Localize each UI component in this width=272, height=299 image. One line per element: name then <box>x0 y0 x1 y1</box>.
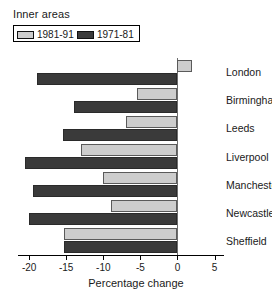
x-tick--15 <box>66 255 67 260</box>
x-tick-label-5: 5 <box>200 262 230 273</box>
legend-entry-1971-81: 1971-81 <box>77 28 134 41</box>
category-label-liverpool: Liverpool <box>226 151 269 163</box>
x-tick-5 <box>215 255 216 260</box>
x-tick-0 <box>177 255 178 260</box>
x-tick-label-0: 0 <box>162 262 192 273</box>
legend-swatch-icon-1971-81 <box>77 31 94 39</box>
bar-birmingham-1981-91 <box>137 88 178 100</box>
bar-birmingham-1971-81 <box>74 101 178 113</box>
bar-chart: Inner areas 1981-91 1971-81 -20-15-10-50… <box>0 0 272 299</box>
plot-area <box>18 58 222 255</box>
bar-sheffield-1971-81 <box>64 241 177 253</box>
x-tick--20 <box>29 255 30 260</box>
bar-sheffield-1981-91 <box>64 228 177 240</box>
legend-label-1971-81: 1971-81 <box>97 30 134 40</box>
bar-newcastle-1971-81 <box>29 213 177 225</box>
legend-entry-1981-91: 1981-91 <box>17 28 74 41</box>
bar-manchester-1981-91 <box>103 172 177 184</box>
x-tick-label--20: -20 <box>14 262 44 273</box>
x-tick-label--10: -10 <box>88 262 118 273</box>
x-axis-title: Percentage change <box>0 277 272 289</box>
category-label-leeds: Leeds <box>226 122 255 134</box>
legend-swatch-icon-1981-91 <box>17 31 34 39</box>
bar-manchester-1971-81 <box>33 185 178 197</box>
legend-box: 1981-91 1971-81 <box>13 25 140 42</box>
category-label-london: London <box>226 66 261 78</box>
category-label-manchester: Manchester <box>226 179 272 191</box>
x-tick--5 <box>140 255 141 260</box>
x-axis-line <box>18 255 224 256</box>
bar-leeds-1971-81 <box>63 129 178 141</box>
category-label-birmingham: Birmingham <box>226 94 272 106</box>
x-tick-label--15: -15 <box>51 262 81 273</box>
x-tick-label--5: -5 <box>125 262 155 273</box>
x-tick--10 <box>103 255 104 260</box>
bar-newcastle-1981-91 <box>111 200 178 212</box>
legend-label-1981-91: 1981-91 <box>37 30 74 40</box>
bar-liverpool-1971-81 <box>25 157 177 169</box>
bar-london-1971-81 <box>37 73 178 85</box>
category-label-newcastle: Newcastle <box>226 207 272 219</box>
legend-title: Inner areas <box>13 8 70 20</box>
bar-london-1981-91 <box>177 60 192 72</box>
zero-reference-line <box>177 58 178 255</box>
bar-leeds-1981-91 <box>126 116 178 128</box>
bar-liverpool-1981-91 <box>81 144 177 156</box>
category-label-sheffield: Sheffield <box>226 235 267 247</box>
